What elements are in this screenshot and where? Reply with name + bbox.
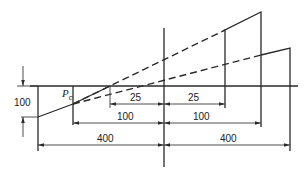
- diagram-canvas: Pc 100 25 100 400 25 100 400: [0, 0, 306, 173]
- dashed-lower-line: [73, 55, 261, 104]
- right-dim-25-label: 25: [188, 92, 200, 103]
- left-dim-100-label: 100: [117, 111, 134, 122]
- pc-label: Pc: [61, 87, 73, 102]
- upper-right-profile: [225, 12, 261, 127]
- solid-slope-line: [38, 86, 110, 117]
- left-dim-400-label: 400: [97, 133, 114, 144]
- left-dim-25-label: 25: [130, 92, 142, 103]
- right-dim-400-label: 400: [220, 133, 237, 144]
- vdim-label: 100: [14, 97, 31, 108]
- lower-right-profile: [261, 48, 290, 151]
- right-dim-100-label: 100: [193, 111, 210, 122]
- dashed-upper-line: [73, 30, 225, 104]
